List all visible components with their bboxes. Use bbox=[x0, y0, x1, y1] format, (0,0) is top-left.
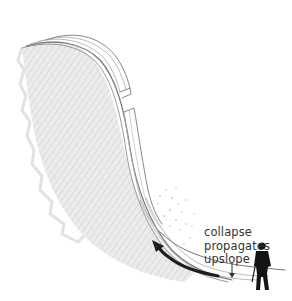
caption-line-2: propagates bbox=[204, 240, 270, 254]
caption-text: collapse propagates upslope bbox=[204, 226, 270, 267]
caption-line-3: upslope bbox=[204, 253, 270, 267]
snow-debris bbox=[157, 187, 195, 244]
caption-line-1: collapse bbox=[204, 226, 270, 240]
